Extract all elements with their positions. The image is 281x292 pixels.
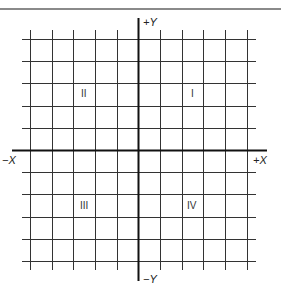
- quadrant-label-iii: III: [80, 201, 88, 211]
- x-negative-label: −X: [2, 155, 16, 166]
- y-positive-label: +Y: [143, 17, 157, 28]
- quadrant-label-i: I: [191, 89, 194, 99]
- coordinate-grid: [0, 0, 281, 292]
- x-positive-label: +X: [253, 155, 267, 166]
- quadrant-label-iv: IV: [187, 201, 196, 211]
- y-negative-label: −Y: [143, 274, 157, 285]
- quadrant-label-ii: II: [81, 89, 87, 99]
